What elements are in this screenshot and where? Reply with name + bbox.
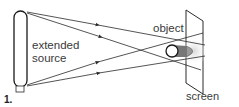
lamp-base xyxy=(16,86,24,92)
source-label-line1: extended xyxy=(32,39,79,52)
screen-label: screen xyxy=(186,90,219,103)
object-ball xyxy=(166,45,178,57)
extended-source-lamp xyxy=(14,11,27,92)
object-label: object xyxy=(153,22,184,35)
source-label-line2: source xyxy=(32,52,67,65)
figure-number: 1. xyxy=(4,94,12,105)
